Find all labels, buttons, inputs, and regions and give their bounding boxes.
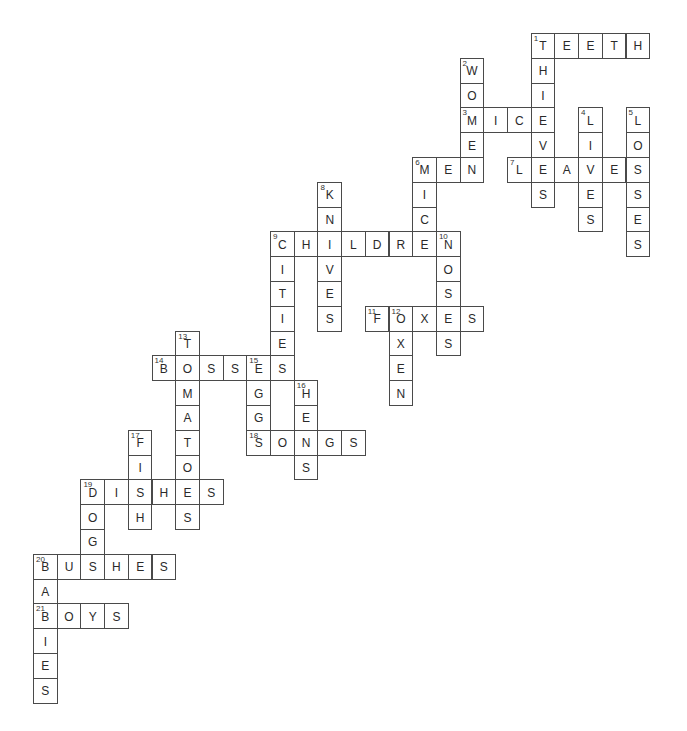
crossword-cell[interactable]: I	[483, 107, 508, 133]
crossword-cell[interactable]: M	[175, 380, 200, 406]
crossword-cell[interactable]: E	[317, 281, 342, 307]
crossword-cell[interactable]: E	[389, 355, 414, 381]
crossword-cell[interactable]: 15E	[246, 355, 271, 381]
crossword-cell[interactable]: E	[531, 157, 556, 183]
crossword-cell[interactable]: T	[175, 430, 200, 456]
crossword-cell[interactable]: I	[33, 628, 58, 654]
crossword-cell[interactable]: 13T	[175, 331, 200, 357]
crossword-cell[interactable]: S	[578, 207, 603, 233]
crossword-cell[interactable]: 7L	[507, 157, 532, 183]
crossword-cell[interactable]: E	[602, 157, 627, 183]
crossword-cell[interactable]: O	[436, 256, 461, 282]
crossword-cell[interactable]: 21B	[33, 603, 58, 629]
crossword-cell[interactable]: E	[578, 33, 603, 59]
crossword-cell[interactable]: I	[412, 182, 437, 208]
crossword-cell[interactable]: 3M	[460, 107, 485, 133]
crossword-cell[interactable]: G	[246, 405, 271, 431]
crossword-cell[interactable]: E	[33, 653, 58, 679]
crossword-cell[interactable]: 8K	[317, 182, 342, 208]
crossword-cell[interactable]: X	[412, 306, 437, 332]
crossword-cell[interactable]: I	[128, 455, 153, 481]
crossword-cell[interactable]: O	[175, 455, 200, 481]
crossword-cell[interactable]: 17F	[128, 430, 153, 456]
crossword-cell[interactable]: Y	[80, 603, 105, 629]
crossword-cell[interactable]: 4L	[578, 107, 603, 133]
crossword-cell[interactable]: S	[626, 157, 651, 183]
crossword-cell[interactable]: A	[175, 405, 200, 431]
crossword-cell[interactable]: E	[128, 554, 153, 580]
crossword-cell[interactable]: R	[389, 231, 414, 257]
crossword-cell[interactable]: S	[80, 554, 105, 580]
crossword-cell[interactable]: I	[270, 256, 295, 282]
crossword-cell[interactable]: N	[389, 380, 414, 406]
crossword-cell[interactable]: 12O	[389, 306, 414, 332]
crossword-cell[interactable]: H	[626, 33, 651, 59]
crossword-cell[interactable]: G	[246, 380, 271, 406]
crossword-cell[interactable]: V	[531, 132, 556, 158]
crossword-cell[interactable]: 5L	[626, 107, 651, 133]
crossword-cell[interactable]: S	[626, 182, 651, 208]
crossword-cell[interactable]: T	[602, 33, 627, 59]
crossword-cell[interactable]: S	[460, 306, 485, 332]
crossword-cell[interactable]: N	[460, 157, 485, 183]
crossword-cell[interactable]: 1T	[531, 33, 556, 59]
crossword-cell[interactable]: G	[80, 529, 105, 555]
crossword-cell[interactable]: U	[57, 554, 82, 580]
crossword-cell[interactable]: E	[436, 306, 461, 332]
crossword-cell[interactable]: I	[317, 231, 342, 257]
crossword-cell[interactable]: A	[33, 579, 58, 605]
crossword-cell[interactable]: 14B	[152, 355, 177, 381]
crossword-cell[interactable]: 9C	[270, 231, 295, 257]
crossword-cell[interactable]: S	[199, 355, 224, 381]
crossword-cell[interactable]: I	[104, 479, 129, 505]
crossword-cell[interactable]: E	[294, 405, 319, 431]
crossword-cell[interactable]: N	[294, 430, 319, 456]
crossword-cell[interactable]: I	[531, 83, 556, 109]
crossword-cell[interactable]: 16H	[294, 380, 319, 406]
crossword-cell[interactable]: S	[128, 479, 153, 505]
crossword-cell[interactable]: S	[33, 678, 58, 704]
crossword-cell[interactable]: H	[531, 58, 556, 84]
crossword-cell[interactable]: E	[531, 107, 556, 133]
crossword-cell[interactable]: E	[175, 479, 200, 505]
crossword-cell[interactable]: N	[317, 207, 342, 233]
crossword-cell[interactable]: 10N	[436, 231, 461, 257]
crossword-cell[interactable]: O	[57, 603, 82, 629]
crossword-cell[interactable]: E	[460, 132, 485, 158]
crossword-cell[interactable]: I	[578, 132, 603, 158]
crossword-cell[interactable]: 18S	[246, 430, 271, 456]
crossword-cell[interactable]: C	[412, 207, 437, 233]
crossword-cell[interactable]: E	[626, 207, 651, 233]
crossword-cell[interactable]: O	[175, 355, 200, 381]
crossword-cell[interactable]: S	[152, 554, 177, 580]
crossword-cell[interactable]: S	[175, 504, 200, 530]
crossword-cell[interactable]: 20B	[33, 554, 58, 580]
crossword-cell[interactable]: O	[626, 132, 651, 158]
crossword-cell[interactable]: O	[80, 504, 105, 530]
crossword-cell[interactable]: S	[626, 231, 651, 257]
crossword-cell[interactable]: S	[199, 479, 224, 505]
crossword-cell[interactable]: S	[436, 331, 461, 357]
crossword-cell[interactable]: H	[152, 479, 177, 505]
crossword-cell[interactable]: X	[389, 331, 414, 357]
crossword-cell[interactable]: 11F	[365, 306, 390, 332]
crossword-cell[interactable]: H	[128, 504, 153, 530]
crossword-cell[interactable]: E	[554, 33, 579, 59]
crossword-cell[interactable]: S	[294, 455, 319, 481]
crossword-cell[interactable]: S	[104, 603, 129, 629]
crossword-cell[interactable]: I	[270, 306, 295, 332]
crossword-cell[interactable]: O	[460, 83, 485, 109]
crossword-cell[interactable]: 2W	[460, 58, 485, 84]
crossword-cell[interactable]: E	[436, 157, 461, 183]
crossword-cell[interactable]: T	[270, 281, 295, 307]
crossword-cell[interactable]: H	[294, 231, 319, 257]
crossword-cell[interactable]: L	[341, 231, 366, 257]
crossword-cell[interactable]: S	[531, 182, 556, 208]
crossword-cell[interactable]: S	[317, 306, 342, 332]
crossword-cell[interactable]: 6M	[412, 157, 437, 183]
crossword-cell[interactable]: C	[507, 107, 532, 133]
crossword-cell[interactable]: E	[270, 331, 295, 357]
crossword-cell[interactable]: E	[578, 182, 603, 208]
crossword-cell[interactable]: A	[554, 157, 579, 183]
crossword-cell[interactable]: D	[365, 231, 390, 257]
